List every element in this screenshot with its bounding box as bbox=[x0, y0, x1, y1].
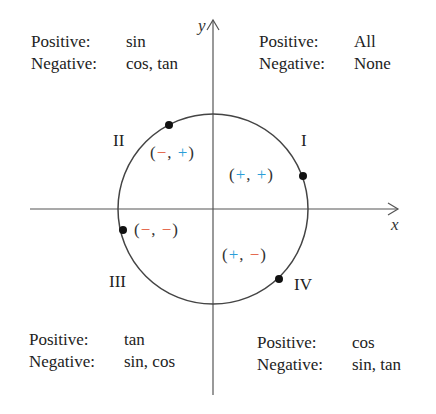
sign-x: − bbox=[157, 143, 168, 162]
quadrant-iii-info: Positive:tan Negative:sin, cos bbox=[29, 329, 175, 373]
sign-y: + bbox=[257, 165, 268, 184]
negative-label: Negative: bbox=[29, 351, 124, 373]
point-quadrant-i bbox=[299, 172, 307, 180]
sign-pair-quadrant-iv: (+, −) bbox=[222, 245, 267, 265]
positive-label: Positive: bbox=[31, 31, 126, 53]
quadrant-label-ii: II bbox=[113, 131, 124, 151]
quadrant-i-info: Positive:All Negative:None bbox=[259, 31, 391, 75]
y-axis-label: y bbox=[198, 16, 206, 36]
sign-pair-quadrant-iii: (−, −) bbox=[134, 220, 179, 240]
sign-x: + bbox=[229, 245, 240, 264]
sign-pair-quadrant-i: (+, +) bbox=[229, 165, 274, 185]
quadrant-ii-info: Positive:sin Negative:cos, tan bbox=[31, 31, 178, 75]
positive-label: Positive: bbox=[257, 332, 352, 354]
positive-functions: tan bbox=[124, 329, 145, 351]
negative-label: Negative: bbox=[257, 354, 352, 376]
quadrant-label-i: I bbox=[301, 131, 307, 151]
point-quadrant-iv bbox=[275, 275, 283, 283]
point-quadrant-iii bbox=[119, 226, 127, 234]
positive-label: Positive: bbox=[29, 329, 124, 351]
negative-functions: cos, tan bbox=[126, 53, 178, 75]
x-axis-label: x bbox=[391, 215, 399, 235]
negative-functions: sin, tan bbox=[352, 354, 401, 376]
positive-label: Positive: bbox=[259, 31, 354, 53]
negative-functions: sin, cos bbox=[124, 351, 175, 373]
negative-functions: None bbox=[354, 53, 391, 75]
unit-circle-diagram: y x Positive:sin Negative:cos, tan Posit… bbox=[0, 0, 436, 414]
positive-functions: sin bbox=[126, 31, 146, 53]
point-quadrant-ii bbox=[165, 121, 173, 129]
sign-pair-quadrant-ii: (−, +) bbox=[150, 143, 195, 163]
negative-label: Negative: bbox=[31, 53, 126, 75]
quadrant-iv-info: Positive:cos Negative:sin, tan bbox=[257, 332, 401, 376]
negative-label: Negative: bbox=[259, 53, 354, 75]
positive-functions: cos bbox=[352, 332, 375, 354]
sign-y: − bbox=[250, 245, 261, 264]
sign-y: − bbox=[162, 220, 173, 239]
quadrant-label-iv: IV bbox=[294, 275, 312, 295]
sign-x: + bbox=[236, 165, 247, 184]
positive-functions: All bbox=[354, 31, 376, 53]
quadrant-label-iii: III bbox=[109, 272, 126, 292]
sign-x: − bbox=[141, 220, 152, 239]
sign-y: + bbox=[178, 143, 189, 162]
